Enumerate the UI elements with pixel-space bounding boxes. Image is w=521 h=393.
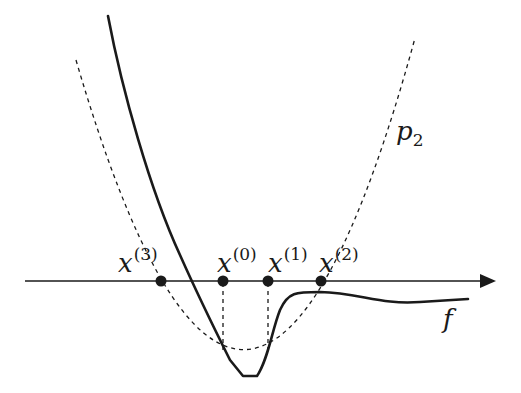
label-x1: x(1): [268, 250, 308, 276]
label-p2-sub: 2: [413, 130, 424, 150]
label-x0: x(0): [217, 250, 257, 276]
label-x3-base: x: [118, 248, 133, 278]
label-p2-base: p: [396, 116, 413, 146]
label-f-base: f: [443, 304, 453, 334]
label-x1-base: x: [268, 248, 283, 278]
label-x0-sup: (0): [233, 244, 257, 264]
label-x3-sup: (3): [134, 244, 158, 264]
label-x1-sup: (1): [284, 244, 308, 264]
label-x0-base: x: [217, 248, 232, 278]
label-x3: x(3): [118, 250, 158, 276]
axis-arrowhead-icon: [480, 274, 496, 288]
label-f: f: [443, 306, 453, 332]
parabola-p2-curve: [76, 38, 415, 350]
function-f-curve: [108, 16, 468, 376]
label-x2-base: x: [319, 248, 334, 278]
point-x3: [156, 276, 167, 287]
label-x2: x(2): [319, 250, 359, 276]
diagram-svg: [0, 0, 521, 393]
label-p2: p2: [396, 118, 423, 144]
label-x2-sup: (2): [335, 244, 359, 264]
diagram-canvas: x(3) x(0) x(1) x(2) p2 f: [0, 0, 521, 393]
